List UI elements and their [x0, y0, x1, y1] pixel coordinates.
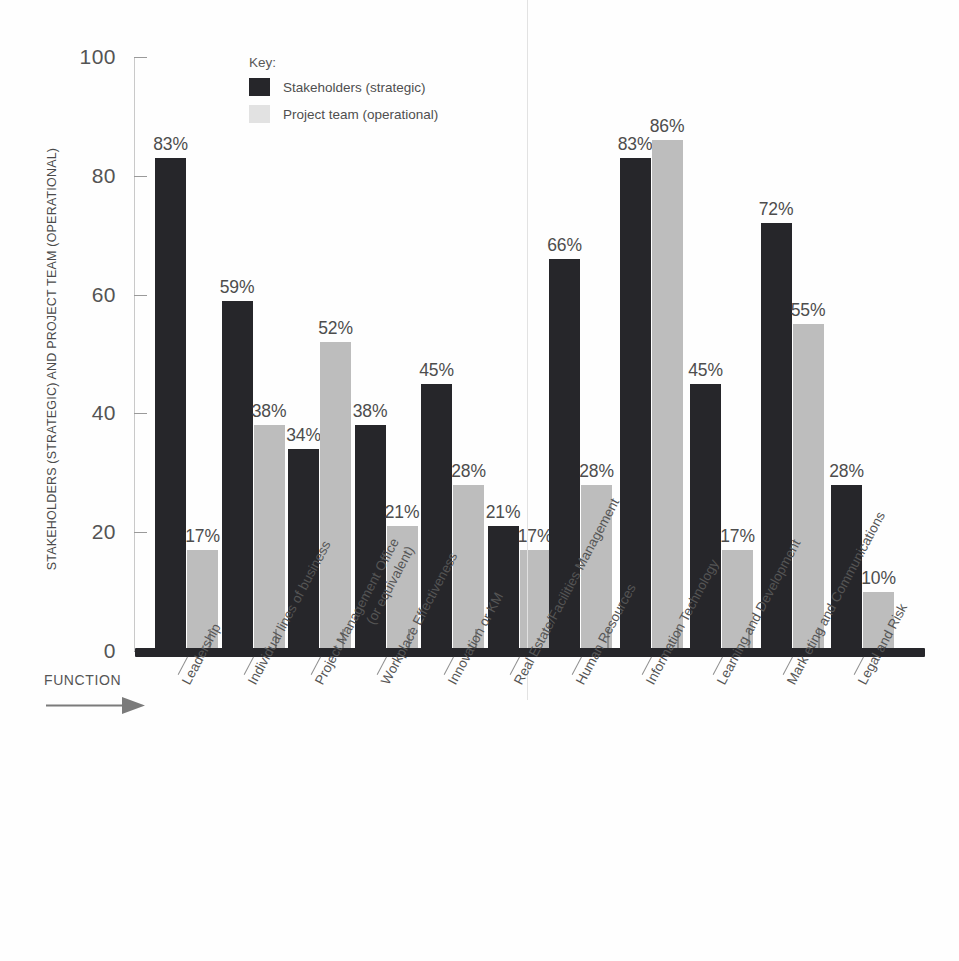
legend-label-stakeholders: Stakeholders (strategic)	[283, 80, 426, 95]
bar-value-label: 21%	[486, 502, 521, 523]
y-tick-label: 20	[54, 520, 116, 544]
bar-group: 59%38%	[222, 57, 285, 651]
y-tick-label: 60	[54, 283, 116, 307]
bar-value-label: 55%	[791, 300, 826, 321]
bar-stakeholders[interactable]: 83%	[155, 158, 186, 651]
bar-value-label: 10%	[861, 568, 896, 589]
legend-swatch-stakeholders-icon	[249, 78, 270, 96]
y-tick-label: 40	[54, 401, 116, 425]
bar-group: 21%17%	[488, 57, 551, 651]
plot-area: 83%17%59%38%34%52%38%21%45%28%21%17%66%2…	[135, 57, 925, 651]
bar-value-label: 45%	[688, 360, 723, 381]
legend-title: Key:	[249, 55, 438, 70]
legend-label-project-team: Project team (operational)	[283, 107, 438, 122]
bar-value-label: 28%	[579, 461, 614, 482]
bar-value-label: 21%	[385, 502, 420, 523]
y-tick-label: 0	[54, 639, 116, 663]
function-annotation: FUNCTION	[44, 672, 148, 718]
bar-value-label: 45%	[419, 360, 454, 381]
legend-item-project-team: Project team (operational)	[249, 105, 438, 123]
function-label: FUNCTION	[44, 672, 148, 688]
bar-project-team[interactable]: 86%	[652, 140, 683, 651]
bar-value-label: 86%	[650, 116, 685, 137]
bar-value-label: 28%	[451, 461, 486, 482]
bar-value-label: 59%	[220, 277, 255, 298]
bar-stakeholders[interactable]: 83%	[620, 158, 651, 651]
bar-value-label: 34%	[286, 425, 321, 446]
bar-value-label: 28%	[829, 461, 864, 482]
arrow-right-icon	[44, 692, 148, 718]
bar-value-label: 38%	[353, 401, 388, 422]
bar-value-label: 52%	[318, 318, 353, 339]
chart-canvas: STAKEHOLDERS (STRATEGIC) AND PROJECT TEA…	[0, 0, 959, 961]
legend-swatch-project-team-icon	[249, 105, 270, 123]
legend-item-stakeholders: Stakeholders (strategic)	[249, 78, 438, 96]
bar-group: 45%17%	[690, 57, 753, 651]
y-tick-label: 80	[54, 164, 116, 188]
bar-value-label: 83%	[618, 134, 653, 155]
bar-value-label: 17%	[185, 526, 220, 547]
bar-value-label: 83%	[153, 134, 188, 155]
bar-group: 83%86%	[620, 57, 683, 651]
legend: Key: Stakeholders (strategic) Project te…	[249, 55, 438, 132]
bar-stakeholders[interactable]: 59%	[222, 301, 253, 651]
bar-value-label: 66%	[547, 235, 582, 256]
bar-project-team[interactable]: 52%	[320, 342, 351, 651]
bar-value-label: 72%	[759, 199, 794, 220]
bar-project-team[interactable]: 55%	[793, 324, 824, 651]
y-tick-label: 100	[54, 45, 116, 69]
bar-value-label: 17%	[518, 526, 553, 547]
category-group-divider	[527, 0, 528, 700]
bar-value-label: 17%	[720, 526, 755, 547]
bar-value-label: 38%	[252, 401, 287, 422]
bar-group: 83%17%	[155, 57, 218, 651]
